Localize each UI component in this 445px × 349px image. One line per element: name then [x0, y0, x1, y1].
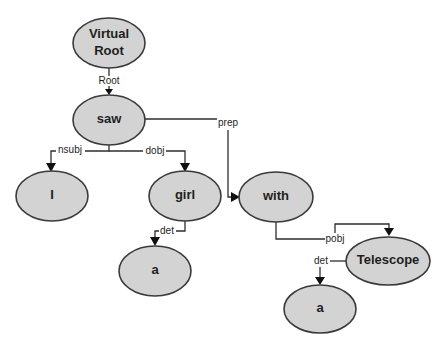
node-label-saw: saw — [97, 111, 122, 126]
node-a-girl: a — [119, 246, 191, 296]
edge-root: Root — [98, 68, 119, 95]
node-telescope: Telescope — [346, 237, 430, 285]
node-label-root: Root — [94, 43, 124, 58]
node-a-telescope: a — [284, 285, 356, 333]
edge-nsubj: nsubj — [46, 144, 109, 172]
node-label-i: I — [50, 187, 54, 202]
arrow-down-icon — [105, 89, 113, 95]
node-girl: girl — [149, 171, 221, 221]
node-with: with — [239, 172, 313, 222]
node-label-girl: girl — [175, 187, 195, 202]
arrow-down-icon — [384, 228, 394, 236]
node-saw: saw — [73, 95, 145, 145]
node-label-telescope: Telescope — [357, 252, 420, 267]
edge-det-girl: det — [150, 221, 185, 246]
edge-label-det-telescope: det — [314, 255, 328, 266]
node-virtual-root: Virtual Root — [73, 18, 145, 68]
arrow-down-icon — [150, 237, 160, 246]
edge-label-nsubj: nsubj — [58, 144, 82, 155]
edge-label-root: Root — [98, 75, 119, 86]
node-label-a-girl: a — [151, 262, 159, 277]
node-label-a-telescope: a — [316, 300, 324, 315]
node-i: I — [16, 171, 88, 221]
edge-label-prep: prep — [218, 117, 238, 128]
arrow-down-icon — [315, 277, 325, 285]
dependency-tree-diagram: Root nsubj dobj prep det pobj — [0, 0, 445, 349]
node-label-virtual: Virtual — [89, 26, 129, 41]
edge-det-telescope: det — [314, 255, 347, 285]
edge-label-det-girl: det — [160, 225, 174, 236]
node-label-with: with — [262, 188, 289, 203]
edge-dobj: dobj — [109, 145, 190, 172]
edge-label-dobj: dobj — [146, 145, 165, 156]
edge-label-pobj: pobj — [326, 233, 345, 244]
